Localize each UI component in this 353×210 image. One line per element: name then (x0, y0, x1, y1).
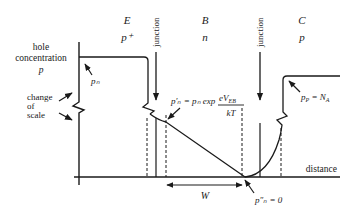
region-C-label: C (298, 14, 306, 26)
region-E-doping: p⁺ (120, 31, 134, 43)
y-axis-label-line3: p (38, 65, 44, 75)
junction-label-eb: junction (151, 17, 161, 48)
region-B-label: B (202, 14, 209, 26)
scale-arrow-upper (59, 93, 72, 101)
base-edge-lhs: p′ₙ = pₙ exp (170, 96, 216, 106)
base-edge-arrow (168, 108, 180, 119)
junction-label-bc: junction (255, 17, 265, 48)
collector-concentration-curve (245, 76, 340, 177)
emitter-level-label: pₙ (90, 76, 100, 86)
y-axis (73, 42, 84, 185)
emitter-level-arrow (85, 64, 92, 75)
collector-level-arrow (289, 81, 300, 92)
y-axis-label-line1: hole (33, 42, 49, 52)
region-C-doping: p (298, 31, 305, 43)
region-B-doping: n (202, 31, 208, 43)
region-E-label: E (123, 14, 131, 26)
collector-edge-arrow (245, 180, 254, 193)
scale-note-line3: scale (27, 110, 45, 120)
scale-arrow-lower (59, 113, 72, 120)
base-edge-denominator: kT (227, 108, 237, 118)
collector-edge-label: p″ₙ = 0 (254, 195, 283, 205)
base-width-label: W (201, 190, 211, 201)
transistor-hole-concentration-diagram: E p⁺ B n C p junction junction hole conc… (0, 0, 353, 210)
base-edge-numerator: eVEB (219, 93, 236, 104)
diagram-canvas: E p⁺ B n C p junction junction hole conc… (0, 0, 353, 210)
collector-level-label: pP = NA (300, 92, 330, 103)
y-axis-label-line2: concentration (15, 53, 67, 63)
x-axis-label: distance (306, 164, 337, 174)
base-concentration-curve (150, 114, 245, 177)
